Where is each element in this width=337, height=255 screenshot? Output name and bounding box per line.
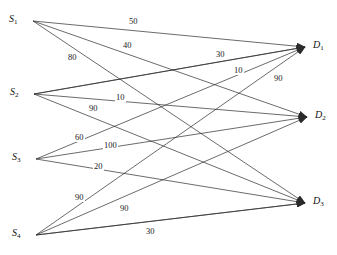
edge-weight-label: 90 xyxy=(273,74,284,83)
edge-weight-label: 30 xyxy=(215,50,226,59)
node-label-s2: S2 xyxy=(10,86,19,99)
edge-weight-label: 10 xyxy=(233,66,244,75)
node-label-d1: D1 xyxy=(313,39,324,52)
node-label-d2: D2 xyxy=(315,109,326,122)
edge-weight-label: 40 xyxy=(122,41,133,50)
edge-s2-d2 xyxy=(34,94,307,117)
edge-weight-label: 10 xyxy=(115,93,126,102)
edge-s2-d3 xyxy=(34,94,305,203)
edge-weight-label: 90 xyxy=(74,193,85,202)
edge-weight-label: 50 xyxy=(128,17,139,26)
network-graph-svg xyxy=(0,0,337,255)
edge-s1-d3 xyxy=(33,21,305,203)
edge-s1-d1 xyxy=(33,21,305,47)
edge-weight-label: 80 xyxy=(67,53,78,62)
node-label-s4: S4 xyxy=(12,227,21,240)
edge-s1-d2 xyxy=(33,21,307,117)
edge-weight-label: 60 xyxy=(74,133,85,142)
node-label-s1: S1 xyxy=(9,13,18,26)
edge-weight-label: 90 xyxy=(119,204,130,213)
edge-s3-d1 xyxy=(36,47,305,159)
edge-weight-label: 90 xyxy=(88,104,99,113)
edge-weight-label: 20 xyxy=(93,162,104,171)
node-label-d3: D3 xyxy=(313,195,324,208)
edge-weight-label: 30 xyxy=(145,227,156,236)
edge-s4-d3b xyxy=(36,203,305,235)
edge-weight-label: 100 xyxy=(103,141,118,150)
diagram-canvas: S1 S2 S3 S4 D1 D2 D3 5040803010901060100… xyxy=(0,0,337,255)
node-label-s3: S3 xyxy=(12,151,21,164)
